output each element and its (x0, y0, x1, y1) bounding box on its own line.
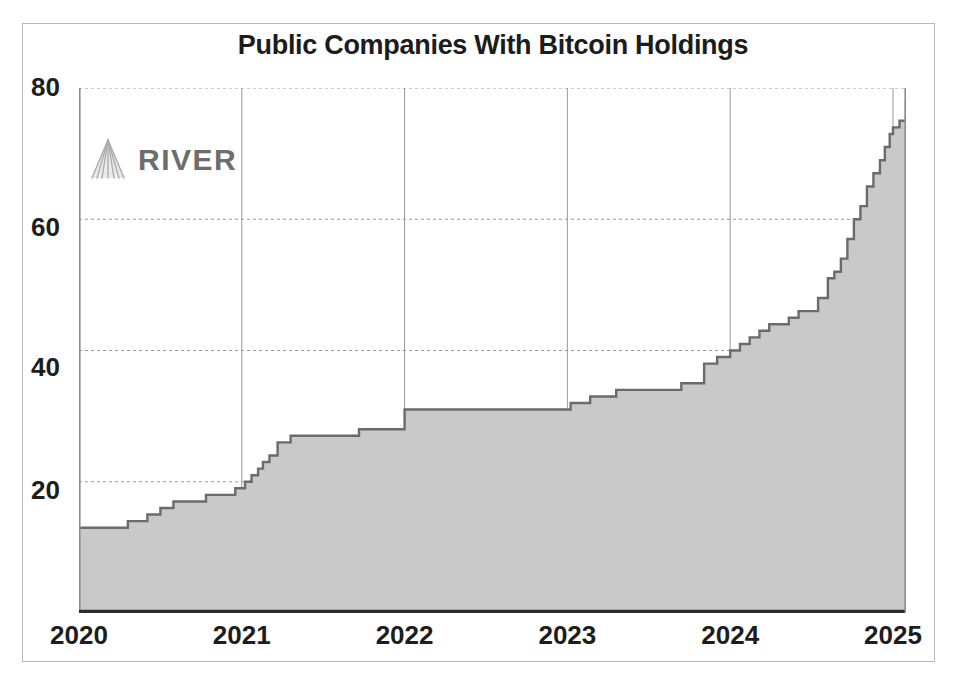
y-tick-label-40: 40 (0, 354, 60, 380)
x-tick-label-2024: 2024 (670, 622, 790, 648)
y-tick-label-80: 80 (0, 74, 60, 100)
y-tick-label-60: 60 (0, 214, 60, 240)
river-fan-logo-icon (88, 138, 128, 182)
x-tick-label-2020: 2020 (19, 622, 139, 648)
watermark: RIVER (88, 138, 237, 182)
x-tick-label-2025: 2025 (833, 622, 953, 648)
y-tick-label-20: 20 (0, 477, 60, 503)
watermark-brand-label: RIVER (138, 145, 237, 175)
chart-title: Public Companies With Bitcoin Holdings (80, 30, 906, 61)
x-tick-label-2023: 2023 (507, 622, 627, 648)
x-tick-label-2022: 2022 (345, 622, 465, 648)
chart-figure: Public Companies With Bitcoin Holdings 8… (0, 0, 956, 686)
x-tick-label-2021: 2021 (182, 622, 302, 648)
